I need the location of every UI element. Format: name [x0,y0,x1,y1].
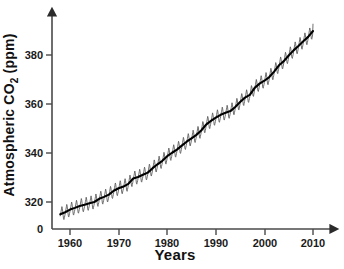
seasonal-oscillation-series [60,24,313,219]
y-tick-label-360: 360 [25,98,43,110]
co2-chart-figure: 0 320 340 360 380 1960 1970 1980 1990 20… [0,0,344,269]
x-tick-label-1960: 1960 [58,237,82,249]
x-tick-label-2010: 2010 [301,237,325,249]
y-tick-label-320: 320 [25,196,43,208]
y-axis-title-unit: (ppm) [1,34,17,78]
axis-lines [52,15,331,229]
x-axis-ticks [70,229,313,235]
chart-plot-area: 0 320 340 360 380 1960 1970 1980 1990 20… [0,0,344,269]
co2-trend-series [60,31,313,214]
x-tick-label-2000: 2000 [253,237,277,249]
y-axis-title-subscript: 2 [9,77,20,83]
y-axis-title: Atmospheric CO2 (ppm) [0,0,18,230]
y-axis-ticks [46,55,52,202]
y-tick-label-0: 0 [37,223,43,235]
y-axis-title-text: Atmospheric CO [1,83,17,196]
y-tick-label-380: 380 [25,49,43,61]
y-tick-labels: 0 320 340 360 380 [25,49,43,235]
y-tick-label-340: 340 [25,147,43,159]
x-axis-title: Years [95,246,255,263]
